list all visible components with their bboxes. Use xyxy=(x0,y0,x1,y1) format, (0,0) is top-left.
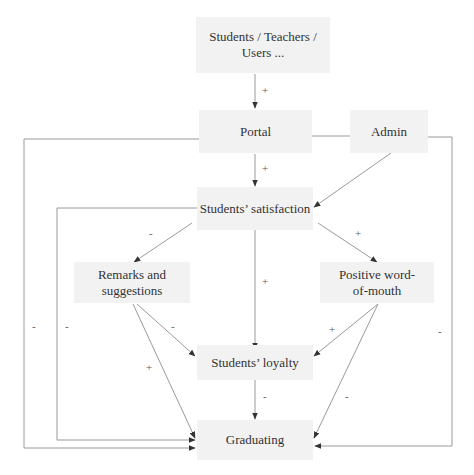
label-wom-loyalty: + xyxy=(329,323,335,335)
edge-remarks-loyalty xyxy=(137,304,195,356)
label-wom-graduating: - xyxy=(345,390,349,402)
node-admin: Admin xyxy=(350,110,428,153)
edge-remarks-graduating xyxy=(133,304,195,438)
label-satisfaction-graduating: - xyxy=(65,320,69,332)
node-remarks: Remarks and suggestions xyxy=(74,262,190,303)
edge-satisfaction-wom xyxy=(318,223,377,262)
node-word-of-mouth: Positive word-of-mouth xyxy=(320,262,434,303)
edge-admin-satisfaction xyxy=(314,153,391,207)
node-satisfaction: Students’ satisfaction xyxy=(197,187,313,230)
label-admin-graduating: - xyxy=(438,325,442,337)
label-portal-graduating: - xyxy=(32,320,36,332)
label-remarks-loyalty: - xyxy=(171,320,175,332)
edge-satisfaction-graduating xyxy=(57,208,197,440)
label-portal-satisfaction: + xyxy=(262,162,268,174)
node-loyalty: Students’ loyalty xyxy=(197,345,313,380)
edge-wom-loyalty xyxy=(314,304,378,356)
edge-wom-graduating xyxy=(314,304,378,438)
label-satisfaction-remarks: - xyxy=(149,227,153,239)
node-users: Students / Teachers / Users ... xyxy=(196,17,330,73)
label-users-portal: + xyxy=(262,84,268,96)
label-satisfaction-wom: + xyxy=(355,227,361,239)
label-remarks-graduating: + xyxy=(146,361,152,373)
edge-satisfaction-remarks xyxy=(134,223,192,262)
node-graduating: Graduating xyxy=(197,420,313,460)
label-satisfaction-loyalty: + xyxy=(262,275,268,287)
node-portal: Portal xyxy=(199,110,312,153)
label-loyalty-graduating: - xyxy=(263,390,267,402)
